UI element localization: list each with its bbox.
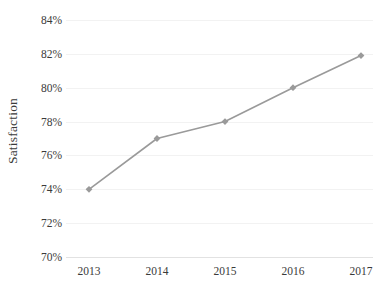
x-axis-line xyxy=(66,257,373,258)
x-axis-tick-labels: 2013 2014 2015 2016 2017 xyxy=(66,264,373,284)
series-satisfaction xyxy=(66,20,373,257)
data-point-marker xyxy=(290,84,297,91)
data-point-marker xyxy=(222,118,229,125)
y-tick-label: 72% xyxy=(18,217,62,229)
x-tick-label: 2017 xyxy=(350,264,373,278)
line-chart: Satisfaction 84% 82% 80% 78% 76% 74% 72%… xyxy=(0,0,379,298)
data-point-marker xyxy=(358,52,365,59)
y-tick-label: 76% xyxy=(18,149,62,161)
y-axis-tick-labels: 84% 82% 80% 78% 76% 74% 72% 70% xyxy=(16,0,62,298)
y-tick-label: 82% xyxy=(18,48,62,60)
x-tick-label: 2013 xyxy=(78,264,101,278)
y-tick-label: 70% xyxy=(18,251,62,263)
x-tick-label: 2014 xyxy=(146,264,169,278)
y-tick-label: 74% xyxy=(18,183,62,195)
plot-area xyxy=(66,20,373,257)
x-tick-label: 2015 xyxy=(214,264,237,278)
y-tick-label: 84% xyxy=(18,14,62,26)
x-tick-label: 2016 xyxy=(282,264,305,278)
y-tick-label: 78% xyxy=(18,116,62,128)
y-tick-label: 80% xyxy=(18,82,62,94)
